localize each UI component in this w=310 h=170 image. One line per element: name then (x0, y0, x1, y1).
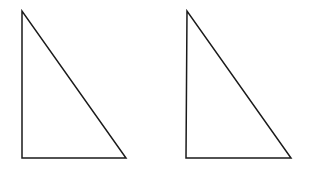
diagram-canvas (0, 0, 310, 170)
triangle-left (22, 11, 126, 158)
triangle-right (186, 11, 291, 158)
